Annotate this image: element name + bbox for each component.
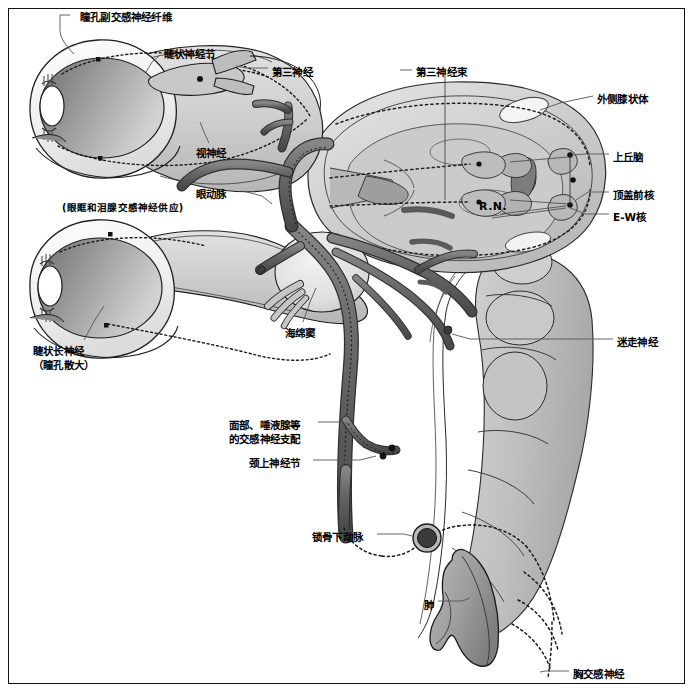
- figure-canvas: 瞳孔副交感神经纤维 睫状神经节 第三神经 第三神经束 外侧膝状体 视神经 上丘脑…: [0, 0, 695, 700]
- label-ew-nucleus: E-W核: [613, 211, 646, 224]
- label-third-nerve: 第三神经: [272, 66, 313, 79]
- label-vagus-nerve: 迷走神经: [617, 336, 658, 349]
- label-subclavian-artery: 锁骨下动脉: [312, 531, 363, 544]
- label-superior-cervical-ganglion: 颈上神经节: [249, 457, 300, 470]
- label-pretectal-nucleus: 顶盖前核: [613, 189, 654, 202]
- label-cavernous-sinus: 海绵窦: [285, 327, 316, 340]
- label-pupillary-parasympathetic-fibers: 瞳孔副交感神经纤维: [80, 11, 172, 24]
- label-ophthalmic-artery-sub: (眼眶和泪腺交感神经供应): [62, 201, 183, 214]
- label-red-nucleus: R.N.: [479, 200, 507, 213]
- cervical-sympathetic-chain: [344, 420, 400, 528]
- label-lung: 肺: [424, 599, 434, 612]
- label-thoracic-sympathetic-nerve: 胸交感神经: [573, 668, 624, 681]
- label-ophthalmic-artery: 眼动脉: [196, 188, 227, 201]
- label-ciliary-ganglion: 睫状神经节: [164, 48, 215, 61]
- label-facial-salivary-sympathetic: 面部、唾液腺等: [229, 419, 300, 432]
- label-third-nerve-tract: 第三神经束: [416, 66, 467, 79]
- subclavian-artery-ring: [413, 524, 441, 552]
- anatomical-illustration: [0, 0, 695, 700]
- label-superior-colliculus: 上丘脑: [613, 151, 644, 164]
- label-lateral-geniculate-body: 外侧膝状体: [597, 93, 648, 106]
- label-optic-nerve: 视神经: [196, 147, 227, 160]
- label-facial-salivary-sympathetic-2: 的交感神经支配: [229, 433, 300, 446]
- label-long-ciliary-nerve: 睫状长神经: [33, 345, 84, 358]
- label-long-ciliary-nerve-sub: （瞳孔散大）: [33, 359, 94, 372]
